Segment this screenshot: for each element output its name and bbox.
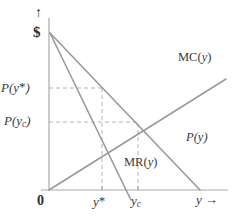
p-y-star-close: ) [26,80,30,95]
mc-close: ) [207,50,211,64]
x-axis-label: y→ [196,193,218,206]
mr-text: MR( [124,155,148,169]
p-close: ) [203,130,207,144]
origin-label: 0 [37,194,44,208]
x-tick-label-y-star: y* [93,194,105,208]
marginal-revenue-curve [50,33,131,200]
marginal-cost-label: MC(y) [178,51,211,64]
mc-text: MC( [178,50,202,64]
y-tick-label-p-y-c: P(yc) [4,114,31,129]
x-axis-variable: y [196,192,202,207]
p-text: P( [186,130,198,144]
p-y-c-close: ) [26,113,30,128]
inverse-demand-label: P(y) [186,131,208,144]
y-c-subscript: c [137,199,141,209]
x-tick-label-y-c: yc [131,194,141,209]
y-axis-currency-label: $ [33,25,41,40]
monopoly-diagram: ↑ $ 0 P(y*) P(yc) y* yc y→ MC(y) P(y) MR… [0,0,235,220]
y-axis-arrow-icon: ↑ [35,6,42,20]
marginal-revenue-label: MR(y) [124,156,157,169]
x-axis-arrow-icon: → [205,192,218,207]
y-star-superscript: * [99,193,106,208]
p-y-c-p: P( [4,113,16,128]
mr-close: ) [153,155,157,169]
p-y-star-p: P( [1,80,13,95]
y-tick-label-p-y-star: P(y*) [1,80,30,94]
